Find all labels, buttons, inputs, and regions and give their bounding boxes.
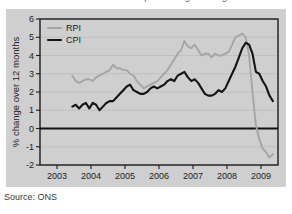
ytick-label: 4 [29,51,34,61]
chart-svg: -2-10123456 2003200420052006200720082009… [6,9,286,187]
xtick-label: 2004 [81,171,101,181]
legend-label-rpi: RPI [66,23,81,33]
xtick-label: 2003 [47,171,67,181]
ytick-label: -2 [26,160,34,170]
chart-title: Annual inflation: RPI and CPI percentage… [6,0,286,3]
y-axis-title-text: % change over 12 months [10,37,21,148]
xtick-label: 2008 [217,171,237,181]
legend-label-cpi: CPI [66,35,81,45]
inflation-chart-figure: Annual inflation: RPI and CPI percentage… [0,0,292,214]
y-axis-title: % change over 12 months [10,37,21,148]
ytick-label: 3 [29,69,34,79]
ytick-label: 0 [29,124,34,134]
ytick-label: 5 [29,32,34,42]
xtick-label: 2005 [115,171,135,181]
ytick-label: -1 [26,142,34,152]
source-note: Source: ONS [4,192,57,203]
xtick-label: 2007 [183,171,203,181]
ytick-label: 2 [29,87,34,97]
ytick-label: 1 [29,105,34,115]
plot-panel: -2-10123456 2003200420052006200720082009… [6,9,286,187]
ytick-label: 6 [29,14,34,24]
xtick-label: 2009 [251,171,271,181]
xtick-label: 2006 [149,171,169,181]
